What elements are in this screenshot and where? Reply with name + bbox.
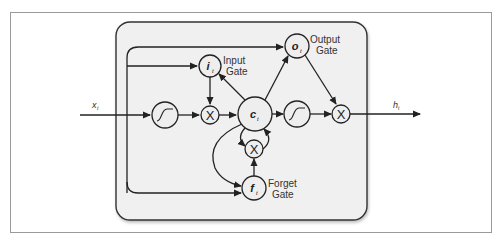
forget-multiply-symbol: X: [250, 142, 259, 157]
lstm-diagram: X X X i t o t c t f t Input Gate Output …: [0, 0, 500, 243]
input-multiply-symbol: X: [206, 108, 215, 123]
input-gate-label-1: Input: [223, 55, 245, 66]
output-multiply-symbol: X: [337, 107, 346, 122]
input-gate-node: [199, 55, 221, 77]
input-gate-label-2: Gate: [226, 66, 248, 77]
forget-gate-label-1: Forget: [268, 178, 297, 189]
output-gate-label-1: Output: [310, 34, 340, 45]
output-gate-symbol: o: [292, 40, 299, 52]
output-gate-label-2: Gate: [316, 45, 338, 56]
input-activation-node: [152, 102, 178, 128]
output-activation-node: [284, 101, 310, 127]
cell-state-symbol: c: [250, 108, 256, 120]
forget-gate-node: [242, 176, 266, 200]
forget-gate-label-2: Gate: [272, 189, 294, 200]
